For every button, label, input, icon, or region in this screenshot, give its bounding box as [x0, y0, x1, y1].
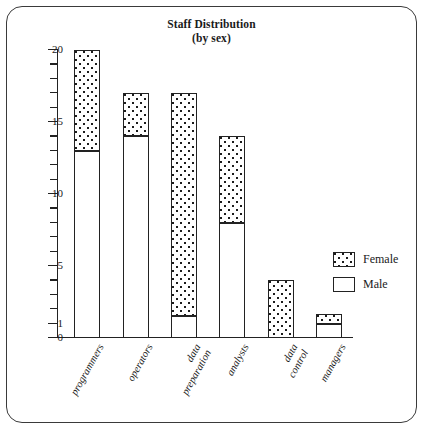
- bar-segment-male: [74, 151, 100, 338]
- bar-analysts: [219, 136, 245, 338]
- x-axis-label: data control: [275, 342, 310, 379]
- y-axis-minor-tick: [50, 78, 57, 79]
- y-axis-tick-label: 10: [41, 188, 63, 199]
- y-axis-minor-tick: [50, 279, 57, 280]
- x-axis-label: operators: [125, 342, 155, 383]
- y-axis-minor-tick: [50, 63, 57, 64]
- y-axis-minor-tick: [50, 135, 57, 136]
- x-axis-label: data preparation: [169, 342, 213, 397]
- bar-operators: [123, 93, 149, 338]
- plot-area: 015101520 programmersoperatorsdata prepa…: [63, 49, 353, 338]
- bar-segment-male: [123, 136, 149, 338]
- x-axis-label: analysts: [224, 342, 251, 378]
- y-axis-minor-tick: [50, 207, 57, 208]
- y-axis-minor-tick: [50, 308, 57, 309]
- bar-segment-female: [123, 93, 149, 136]
- y-axis-minor-tick: [50, 222, 57, 223]
- legend-item: Male: [333, 274, 398, 295]
- y-axis-minor-tick: [50, 294, 57, 295]
- y-axis-minor-tick: [50, 107, 57, 108]
- y-axis-tick-label: 5: [41, 260, 63, 271]
- bar-segment-male: [219, 223, 245, 338]
- x-axis-label: programmers: [69, 342, 107, 397]
- y-axis-tick-label: 20: [41, 44, 63, 55]
- white-swatch-icon: [333, 277, 355, 292]
- dotted-swatch-icon: [333, 252, 355, 267]
- y-axis-minor-tick: [50, 92, 57, 93]
- chart-subtitle: (by sex): [7, 31, 416, 45]
- y-axis-minor-tick: [50, 251, 57, 252]
- bar-segment-female: [171, 93, 197, 316]
- y-axis-tick-label: 0: [41, 332, 63, 343]
- legend-label-male: Male: [363, 277, 388, 292]
- y-axis-tick-label: 15: [41, 116, 63, 127]
- y-axis-minor-tick: [50, 164, 57, 165]
- y-axis-minor-tick: [50, 236, 57, 237]
- bar-segment-female: [268, 280, 294, 338]
- chart-frame: Staff Distribution (by sex) 015101520 pr…: [6, 6, 417, 423]
- bar-managers: [316, 314, 342, 338]
- chart-title-block: Staff Distribution (by sex): [7, 17, 416, 45]
- bar-segment-female: [219, 136, 245, 222]
- bar-segment-female: [74, 50, 100, 151]
- chart-legend: Female Male: [333, 249, 398, 299]
- bar-segment-female: [316, 314, 342, 324]
- legend-item: Female: [333, 249, 398, 270]
- x-axis-line: [57, 337, 353, 338]
- bar-segment-male: [171, 316, 197, 338]
- bar-programmers: [74, 50, 100, 338]
- y-axis-minor-tick: [50, 179, 57, 180]
- bar-segment-male: [316, 324, 342, 338]
- y-axis-minor-tick: [50, 150, 57, 151]
- bar-data-preparation: [171, 93, 197, 338]
- x-axis-label: managers: [318, 342, 348, 384]
- chart-title: Staff Distribution: [7, 17, 416, 31]
- bar-data-control: [268, 280, 294, 338]
- y-axis-tick-label: 1: [41, 317, 63, 328]
- legend-label-female: Female: [363, 252, 398, 267]
